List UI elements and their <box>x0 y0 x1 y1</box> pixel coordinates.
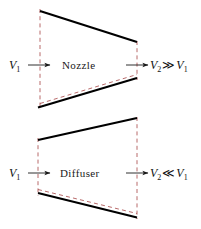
nozzle-compare-velocity-symbol: V <box>176 58 183 72</box>
diffuser-lower-dashed-boundary <box>38 190 137 214</box>
diffuser-outlet-velocity-relation: V2≪V1 <box>150 166 188 182</box>
nozzle-inlet-velocity-label: V1 <box>9 58 20 74</box>
much-greater-than-icon: ≫ <box>161 58 176 72</box>
nozzle-lower-dashed-boundary <box>40 75 137 104</box>
diffuser-lower-wall <box>38 193 137 218</box>
diffuser-inlet-velocity-subscript: 1 <box>16 173 20 182</box>
nozzle-inlet-velocity-subscript: 1 <box>16 65 20 74</box>
nozzle-device-label: Nozzle <box>62 59 96 71</box>
diffuser-upper-wall <box>38 118 137 140</box>
nozzle-lower-wall <box>38 78 137 108</box>
nozzle-upper-wall <box>40 11 137 42</box>
nozzle-outlet-velocity-relation: V2≫V1 <box>150 58 188 74</box>
nozzle-compare-velocity-subscript: 1 <box>184 65 188 74</box>
diffuser-compare-velocity-symbol: V <box>176 166 183 180</box>
nozzle-diffuser-figure: V1 Nozzle V2≫V1 V1 Diffuser V2≪V1 <box>0 0 201 229</box>
diffuser-compare-velocity-subscript: 1 <box>184 173 188 182</box>
much-less-than-icon: ≪ <box>161 166 176 180</box>
diffuser-inlet-velocity-label: V1 <box>9 166 20 182</box>
figure-canvas <box>0 0 201 229</box>
diffuser-device-label: Diffuser <box>60 167 100 179</box>
